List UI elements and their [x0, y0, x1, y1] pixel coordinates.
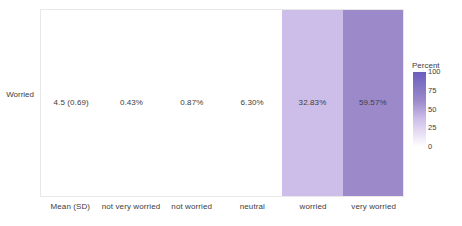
y-axis-row-label: Worried: [0, 0, 36, 188]
x-axis-tick-label: very worried: [351, 202, 396, 211]
x-axis-tick-not-worried: not worried: [161, 199, 222, 215]
heatmap-cell-value: 6.30%: [241, 99, 264, 107]
legend-tick-label: 0: [428, 143, 432, 151]
heatmap-cell-value: 0.87%: [180, 99, 203, 107]
legend-tick-labels: 1007550250: [428, 72, 462, 147]
heatmap-cell-neutral[interactable]: 6.30%: [222, 10, 282, 196]
x-axis-tick-label: not very worried: [102, 202, 161, 211]
heatmap-plot-panel: 4.5 (0.69) 0.43% 0.87% 6.30% 32.83% 59.5…: [40, 9, 404, 197]
x-axis-tick-neutral: neutral: [222, 199, 283, 215]
heatmap-cell-value: 4.5 (0.69): [54, 99, 89, 107]
x-axis-tick-label: Mean (SD): [51, 202, 91, 211]
heatmap-cell-value: 0.43%: [120, 99, 143, 107]
x-axis-tick-label: not worried: [171, 202, 212, 211]
legend-color-gradient-bar: [413, 72, 426, 147]
heatmap-cell-not-worried[interactable]: 0.87%: [162, 10, 222, 196]
heatmap-cell-value: 59.57%: [359, 99, 387, 107]
x-axis-tick-label: neutral: [240, 202, 265, 211]
legend-tick-label: 50: [428, 106, 436, 114]
heatmap-cell-not-very-worried[interactable]: 0.43%: [101, 10, 161, 196]
y-axis-tick-label: Worried: [6, 90, 36, 99]
legend-tick-label: 100: [428, 68, 441, 76]
legend: Percent 1007550250: [411, 61, 462, 161]
x-axis-tick-worried: worried: [283, 199, 344, 215]
heatmap-cell-very-worried[interactable]: 59.57%: [343, 10, 403, 196]
heatmap-cell-mean-sd[interactable]: 4.5 (0.69): [41, 10, 101, 196]
x-axis-tick-labels: Mean (SD) not very worried not worried n…: [40, 199, 404, 215]
x-axis-tick-mean-sd: Mean (SD): [40, 199, 101, 215]
heatmap-cell-value: 32.83%: [299, 99, 327, 107]
legend-tick-label: 75: [428, 87, 436, 95]
x-axis-tick-not-very-worried: not very worried: [101, 199, 162, 215]
x-axis-tick-very-worried: very worried: [343, 199, 404, 215]
heatmap-cell-row: 4.5 (0.69) 0.43% 0.87% 6.30% 32.83% 59.5…: [41, 10, 403, 196]
legend-tick-label: 25: [428, 125, 436, 133]
heatmap-cell-worried[interactable]: 32.83%: [282, 10, 342, 196]
x-axis-tick-label: worried: [300, 202, 327, 211]
